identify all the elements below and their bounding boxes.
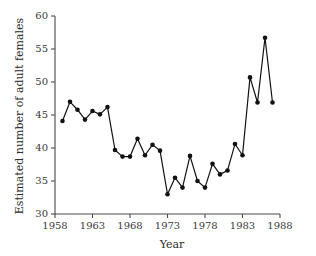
data-point	[113, 148, 118, 153]
y-axis-tick-marks	[51, 16, 55, 214]
data-point	[120, 154, 125, 159]
y-axis-title-label: Estimated number of adult females	[13, 17, 26, 214]
y-tick-label: 60	[35, 10, 48, 21]
data-point	[105, 105, 110, 110]
x-tick-label: 1988	[267, 220, 292, 231]
x-tick-label: 1978	[192, 220, 217, 231]
data-point	[83, 117, 88, 122]
data-point	[210, 162, 215, 167]
data-point	[143, 153, 148, 158]
x-axis-tick-marks	[55, 214, 280, 218]
x-tick-label: 1973	[155, 220, 180, 231]
y-tick-label: 50	[35, 76, 48, 87]
data-point	[90, 109, 95, 114]
data-point	[218, 172, 223, 177]
data-series-line	[63, 38, 273, 194]
data-point	[60, 119, 65, 124]
data-point	[195, 179, 200, 184]
data-point	[98, 112, 103, 117]
y-tick-label: 55	[35, 43, 48, 54]
y-tick-label: 35	[35, 175, 48, 186]
data-point	[180, 185, 185, 190]
data-point	[75, 107, 80, 112]
data-point	[203, 185, 208, 190]
data-point	[150, 142, 155, 147]
x-tick-label: 1958	[42, 220, 67, 231]
data-point	[135, 136, 140, 141]
data-point	[255, 100, 260, 105]
y-axis-title: Estimated number of adult females	[13, 17, 26, 214]
data-series-points	[60, 35, 275, 196]
x-tick-label: 1968	[117, 220, 142, 231]
x-axis-title-label: Year	[159, 238, 185, 251]
y-tick-label: 45	[35, 109, 48, 120]
data-point	[173, 175, 178, 180]
data-point	[240, 153, 245, 158]
data-point	[68, 100, 73, 105]
data-point	[233, 142, 238, 147]
x-tick-label: 1983	[230, 220, 255, 231]
data-point	[225, 168, 230, 173]
data-point	[270, 100, 275, 105]
data-point	[128, 154, 133, 159]
y-axis-tick-labels: 30354045505560	[35, 10, 48, 219]
data-point	[188, 154, 193, 159]
data-point	[263, 35, 268, 40]
data-point	[248, 75, 253, 80]
data-point	[165, 192, 170, 197]
line-chart: Estimated number of adult females 303540…	[0, 0, 316, 256]
data-point	[158, 148, 163, 153]
chart-figure: Estimated number of adult females 303540…	[0, 0, 316, 256]
x-axis-tick-labels: 1958196319681973197819831988	[42, 220, 292, 231]
y-tick-label: 40	[35, 142, 48, 153]
x-tick-label: 1963	[80, 220, 105, 231]
y-tick-label: 30	[35, 208, 48, 219]
